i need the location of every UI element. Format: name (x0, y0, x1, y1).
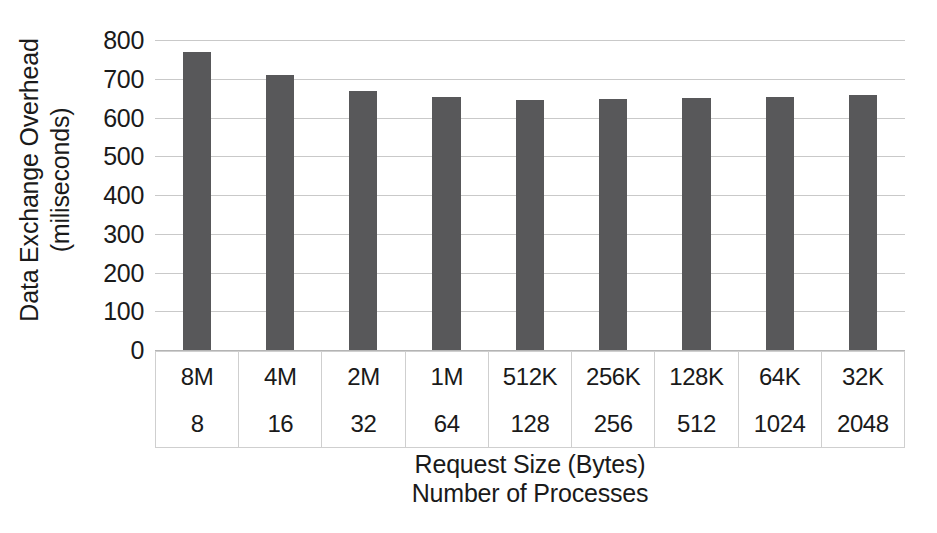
bar[interactable] (682, 98, 710, 350)
x-axis-process-count-label: 16 (239, 401, 321, 448)
bar[interactable] (599, 99, 627, 350)
y-axis-tick-label: 400 (72, 182, 144, 208)
x-axis-category-column: 512K128 (489, 352, 572, 447)
bar[interactable] (183, 52, 211, 350)
y-axis-tick-label: 200 (72, 260, 144, 286)
x-axis-process-count-label: 32 (322, 401, 404, 448)
bar[interactable] (432, 97, 460, 350)
y-axis-tick-label: 600 (72, 105, 144, 131)
x-axis-request-size-label: 128K (655, 352, 737, 401)
x-axis-category-column: 32K2048 (822, 352, 904, 447)
x-axis-request-size-label: 32K (822, 352, 904, 401)
bar[interactable] (349, 91, 377, 350)
x-axis-request-size-label: 512K (489, 352, 571, 401)
x-axis-request-size-label: 2M (322, 352, 404, 401)
y-axis-tick-label: 500 (72, 143, 144, 169)
x-axis-category-column: 4M16 (239, 352, 322, 447)
x-axis-process-count-label: 8 (156, 401, 238, 448)
bar-slot (572, 40, 655, 350)
y-axis-tick-label: 100 (72, 298, 144, 324)
x-axis-title: Request Size (Bytes) Number of Processes (155, 450, 905, 508)
x-axis-category-table: 8M84M162M321M64512K128256K256128K51264K1… (155, 351, 905, 448)
bar[interactable] (766, 97, 794, 350)
bar-slot (238, 40, 321, 350)
bar-slot (488, 40, 571, 350)
x-axis-process-count-label: 256 (572, 401, 654, 448)
bar-slot (655, 40, 738, 350)
x-axis-request-size-label: 256K (572, 352, 654, 401)
bar[interactable] (516, 100, 544, 350)
x-axis-category-column: 64K1024 (739, 352, 822, 447)
x-axis-category-column: 128K512 (655, 352, 738, 447)
x-axis-process-count-label: 64 (406, 401, 488, 448)
bar-slot (322, 40, 405, 350)
bar-slot (822, 40, 905, 350)
y-axis-tick-label: 700 (72, 66, 144, 92)
y-axis-tick-label: 0 (72, 337, 144, 363)
bar-chart: Data Exchange Overhead (miliseconds) 800… (0, 0, 937, 533)
bar[interactable] (849, 95, 877, 350)
bar-slot (738, 40, 821, 350)
x-axis-request-size-label: 8M (156, 352, 238, 401)
x-axis-title-line1: Request Size (Bytes) (155, 450, 905, 479)
x-axis-process-count-label: 1024 (739, 401, 821, 448)
y-axis-tick-label: 300 (72, 221, 144, 247)
x-axis-request-size-label: 64K (739, 352, 821, 401)
bar-slot (405, 40, 488, 350)
y-axis-tick-labels: 8007006005004003002001000 (72, 27, 144, 353)
x-axis-title-line2: Number of Processes (155, 479, 905, 508)
bar[interactable] (266, 75, 294, 350)
x-axis-process-count-label: 128 (489, 401, 571, 448)
y-axis-title-line1: Data Exchange Overhead (14, 38, 45, 321)
x-axis-category-column: 8M8 (156, 352, 239, 447)
bar-series (155, 40, 905, 350)
x-axis-category-column: 2M32 (322, 352, 405, 447)
plot-area (155, 40, 905, 350)
bar-slot (155, 40, 238, 350)
x-axis-process-count-label: 2048 (822, 401, 904, 448)
y-axis-tick-label: 800 (72, 27, 144, 53)
x-axis-request-size-label: 1M (406, 352, 488, 401)
x-axis-process-count-label: 512 (655, 401, 737, 448)
x-axis-request-size-label: 4M (239, 352, 321, 401)
x-axis-category-column: 256K256 (572, 352, 655, 447)
x-axis-category-column: 1M64 (406, 352, 489, 447)
